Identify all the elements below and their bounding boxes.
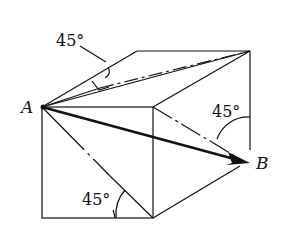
angle-label-right: 45° [212, 102, 240, 121]
angle-label-top: 45° [56, 31, 84, 50]
point-a-dot [41, 105, 46, 110]
vector-arrow [42, 107, 238, 160]
angle-label-bottom: 45° [82, 190, 110, 209]
label-b: B [255, 153, 269, 173]
label-a: A [19, 97, 33, 117]
cube-vector-diagram: A B 45° 45° 45° [0, 0, 282, 227]
diagram-svg: A B 45° 45° 45° [0, 0, 282, 227]
cube-edges [42, 46, 250, 218]
